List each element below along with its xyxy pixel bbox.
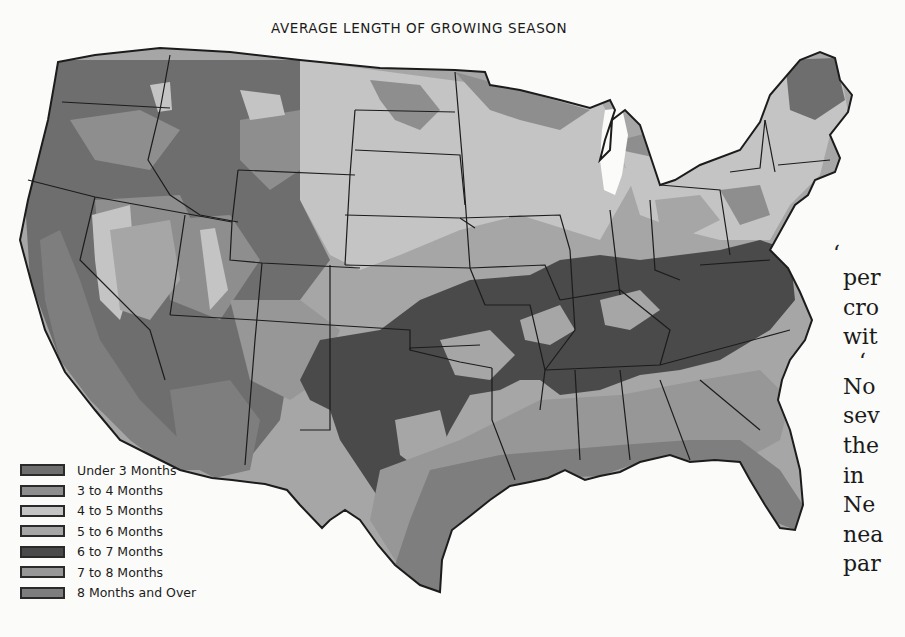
legend-label: Under 3 Months	[77, 463, 176, 478]
legend-item-3-to-4: 3 to 4 Months	[20, 480, 196, 500]
legend-item-under-3: Under 3 Months	[20, 460, 196, 480]
text-line: nea	[843, 520, 883, 550]
legend-swatch	[20, 485, 65, 497]
text-line: No	[843, 372, 883, 402]
legend-item-7-to-8: 7 to 8 Months	[20, 562, 196, 582]
legend-label: 6 to 7 Months	[77, 544, 163, 559]
legend-label: 7 to 8 Months	[77, 565, 163, 580]
text-line: Ne	[843, 490, 883, 520]
legend-label: 3 to 4 Months	[77, 483, 163, 498]
text-line: the	[843, 431, 883, 461]
text-line: in	[843, 461, 883, 491]
text-line: wit	[843, 322, 883, 352]
legend-swatch	[20, 464, 65, 476]
text-line: ‘	[833, 245, 883, 263]
legend-swatch	[20, 505, 65, 517]
text-line: ‘	[859, 352, 883, 372]
legend-item-4-to-5: 4 to 5 Months	[20, 501, 196, 521]
side-body-text: ‘percrowit‘NosevtheinNeneapar	[843, 245, 883, 579]
text-line: cro	[843, 293, 883, 323]
legend-label: 8 Months and Over	[77, 585, 196, 600]
text-line: par	[843, 549, 883, 579]
legend-label: 5 to 6 Months	[77, 524, 163, 539]
legend-item-6-to-7: 6 to 7 Months	[20, 542, 196, 562]
legend-swatch	[20, 587, 65, 599]
legend-swatch	[20, 525, 65, 537]
text-line: per	[843, 263, 883, 293]
legend-item-8-plus: 8 Months and Over	[20, 582, 196, 602]
map-legend: Under 3 Months 3 to 4 Months 4 to 5 Mont…	[20, 460, 196, 603]
text-line: sev	[843, 401, 883, 431]
legend-swatch	[20, 546, 65, 558]
legend-item-5-to-6: 5 to 6 Months	[20, 521, 196, 541]
legend-label: 4 to 5 Months	[77, 503, 163, 518]
legend-swatch	[20, 566, 65, 578]
